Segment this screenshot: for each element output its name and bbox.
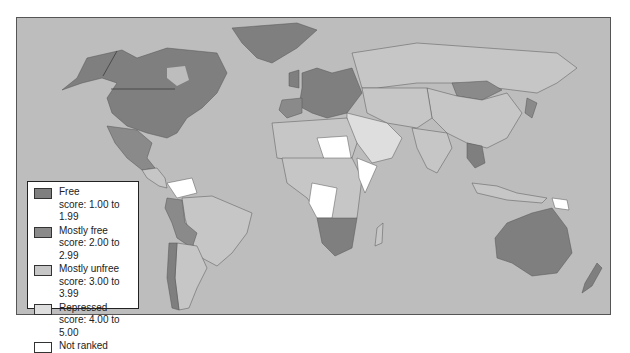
swatch-mostly-free — [34, 227, 52, 238]
swatch-free — [34, 188, 52, 199]
region-indonesia — [472, 183, 547, 203]
legend-label: Repressed — [59, 302, 107, 313]
legend-score: score: 2.00 to 2.99 — [59, 237, 132, 262]
legend-item-mostly-free: Mostly free score: 2.00 to 2.99 — [34, 225, 132, 263]
region-australia — [495, 208, 572, 276]
legend-label: Mostly free — [59, 225, 108, 236]
region-europe — [299, 68, 362, 118]
legend-label: Not ranked — [59, 340, 108, 351]
swatch-not-ranked — [34, 342, 52, 353]
legend-score: score: 4.00 to 5.00 — [59, 314, 132, 339]
legend-item-free: Free score: 1.00 to 1.99 — [34, 186, 132, 224]
region-madagascar — [375, 223, 383, 246]
swatch-repressed — [34, 304, 52, 315]
legend-item-not-ranked: Not ranked — [34, 340, 132, 353]
legend-score: score: 1.00 to 1.99 — [59, 199, 132, 224]
region-iberia — [279, 98, 302, 118]
region-north-america — [62, 48, 227, 138]
legend-score: score: 3.00 to 3.99 — [59, 276, 132, 301]
swatch-mostly-unfree — [34, 265, 52, 276]
region-japan — [525, 98, 537, 118]
legend-item-mostly-unfree: Mostly unfree score: 3.00 to 3.99 — [34, 263, 132, 301]
legend-label: Mostly unfree — [59, 263, 119, 274]
region-venezuela — [167, 178, 197, 198]
legend-item-repressed: Repressed score: 4.00 to 5.00 — [34, 302, 132, 340]
region-greenland — [232, 23, 317, 63]
map-legend: Free score: 1.00 to 1.99 Mostly free sco… — [27, 181, 139, 309]
legend-label: Free — [59, 186, 80, 197]
region-new-zealand — [582, 263, 602, 293]
region-uk — [289, 70, 299, 88]
region-thailand — [467, 143, 485, 168]
region-png — [552, 198, 569, 210]
region-india — [412, 128, 452, 173]
region-southern-africa — [317, 218, 357, 256]
region-drc-angola — [309, 183, 337, 218]
region-central-america — [142, 168, 167, 188]
